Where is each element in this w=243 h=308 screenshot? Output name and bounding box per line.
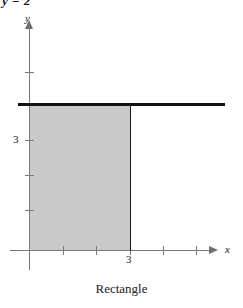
x-tick-2 (96, 246, 97, 255)
y-axis-label: y (25, 12, 30, 24)
figure-caption: Rectangle (0, 281, 243, 297)
region-right-boundary (130, 104, 131, 251)
y-tick-5 (25, 72, 34, 73)
shaded-region-rectangle (30, 106, 130, 250)
figure-rectangle: y = 2 y x 3 3 Rectangle (0, 0, 243, 308)
y-tick-3 (25, 140, 34, 141)
x-axis-arrow-icon (209, 246, 218, 254)
x-axis-line (10, 250, 210, 251)
x-tick-5 (196, 246, 197, 255)
y-tick-label-3: 3 (13, 133, 19, 145)
x-tick-1 (63, 246, 64, 255)
x-tick-label-3: 3 (126, 253, 132, 265)
function-line-y-equals-4 (18, 103, 225, 106)
x-tick-4 (163, 246, 164, 255)
y-tick-2 (25, 175, 34, 176)
equation-fragment: y = 2 (2, 0, 31, 9)
y-axis-line (29, 26, 30, 270)
x-axis-label: x (225, 243, 230, 255)
y-tick-1 (25, 210, 34, 211)
